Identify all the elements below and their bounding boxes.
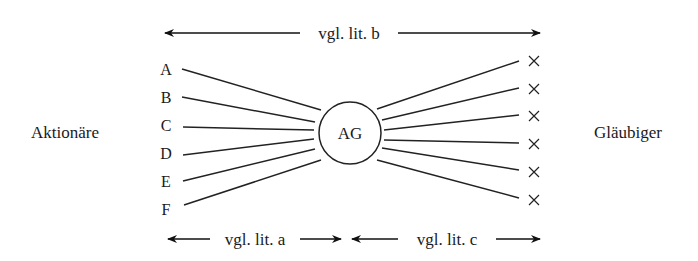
creditor-list <box>529 56 539 205</box>
link-c <box>183 127 314 130</box>
creditor-6-cross-icon <box>529 195 539 205</box>
link-creditor-1 <box>377 61 519 109</box>
bottom-left-arrow-label: vgl. lit. a <box>225 230 286 249</box>
creditor-3-cross-icon <box>529 111 539 121</box>
creditor-2-cross-icon <box>529 84 539 94</box>
link-a <box>182 69 321 110</box>
link-f <box>184 160 321 205</box>
link-creditor-6 <box>377 160 519 198</box>
creditors-label: Gläubiger <box>594 123 662 142</box>
link-b <box>182 97 315 122</box>
shareholder-d: D <box>160 145 172 162</box>
top-arrow-lit-b: vgl. lit. b <box>165 24 540 43</box>
shareholder-links <box>182 69 321 205</box>
bottom-arrow-lit-c: vgl. lit. c <box>352 230 540 249</box>
shareholder-a: A <box>160 61 172 78</box>
shareholder-creditor-diagram: vgl. lit. b Aktionäre Gläubiger A B C D … <box>0 0 698 261</box>
shareholder-c: C <box>161 117 172 134</box>
top-arrow-label: vgl. lit. b <box>318 24 379 43</box>
company-label: AG <box>338 124 363 143</box>
link-creditor-4 <box>384 140 519 143</box>
company-node: AG <box>319 102 381 164</box>
bottom-arrow-lit-a: vgl. lit. a <box>168 230 341 249</box>
link-e <box>183 149 315 181</box>
bottom-right-arrow-label: vgl. lit. c <box>417 230 478 249</box>
creditor-links <box>377 61 519 198</box>
shareholder-f: F <box>162 201 171 218</box>
link-creditor-2 <box>382 88 519 120</box>
creditor-1-cross-icon <box>529 56 539 66</box>
shareholders-label: Aktionäre <box>31 123 99 142</box>
creditor-5-cross-icon <box>529 167 539 177</box>
shareholder-b: B <box>161 89 172 106</box>
shareholder-list: A B C D E F <box>160 61 172 218</box>
link-d <box>183 139 314 155</box>
shareholder-e: E <box>161 173 171 190</box>
link-creditor-3 <box>384 115 519 130</box>
creditor-4-cross-icon <box>529 139 539 149</box>
